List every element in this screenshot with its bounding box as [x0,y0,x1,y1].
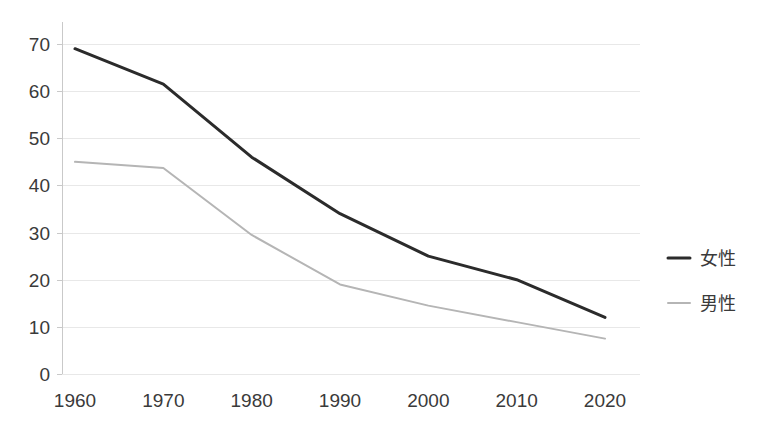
data-series [75,49,605,339]
series-line-男性 [75,162,605,339]
y-tick-label: 0 [39,364,50,385]
y-tick-label: 20 [29,270,50,291]
x-tick-label: 1990 [319,390,361,411]
x-axis-tick-labels: 1960197019801990200020102020 [54,390,626,411]
x-tick-label: 1970 [142,390,184,411]
x-tick-label: 2000 [407,390,449,411]
y-tick-label: 10 [29,317,50,338]
y-tick-label: 40 [29,175,50,196]
y-tick-label: 50 [29,128,50,149]
x-tick-label: 1960 [54,390,96,411]
y-axis-tick-labels: 010203040506070 [29,34,50,385]
y-tick-label: 30 [29,223,50,244]
chart-container: 010203040506070 196019701980199020002010… [0,0,769,436]
chart-legend: 女性男性 [668,249,736,314]
axis-lines [57,22,63,375]
legend-label-男性: 男性 [700,294,736,314]
series-line-女性 [75,49,605,318]
x-tick-label: 2010 [496,390,538,411]
legend-label-女性: 女性 [700,249,736,269]
gridlines [62,45,640,375]
line-chart: 010203040506070 196019701980199020002010… [0,0,769,436]
x-tick-label: 2020 [584,390,626,411]
y-tick-label: 70 [29,34,50,55]
y-tick-label: 60 [29,81,50,102]
x-tick-label: 1980 [231,390,273,411]
